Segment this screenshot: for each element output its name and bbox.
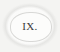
chapter-number: IX. [0,0,60,52]
chapter-ornament: IX. [0,0,60,52]
